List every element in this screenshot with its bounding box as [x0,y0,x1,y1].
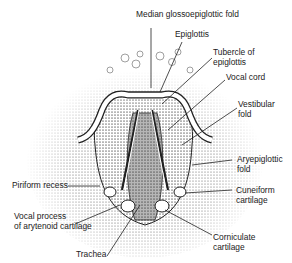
label-tubercle-of-epiglottis: Tubercle of epiglottis [213,48,255,67]
label-median-glossoepiglottic-fold: Median glossoepiglottic fold [136,10,239,20]
cuneiform-left [104,187,116,197]
cuneiform-right [174,187,186,197]
label-vocal-cord: Vocal cord [226,73,265,83]
corniculate-right [155,200,169,212]
label-vocal-process: Vocal process of arytenoid cartilage [14,212,92,231]
label-epiglottis: Epiglottis [175,30,209,40]
label-vestibular-fold: Vestibular fold [238,100,275,119]
corniculate-left [121,200,135,212]
label-aryepiglottic-fold: Aryepiglottic fold [237,155,283,174]
label-cuneiform-cartilage: Cuneiform cartilage [236,186,275,205]
label-corniculate-cartilage: Corniculate cartilage [213,233,255,252]
label-piriform-recess: Piriform recess [12,181,68,191]
label-trachea: Trachea [76,250,106,260]
